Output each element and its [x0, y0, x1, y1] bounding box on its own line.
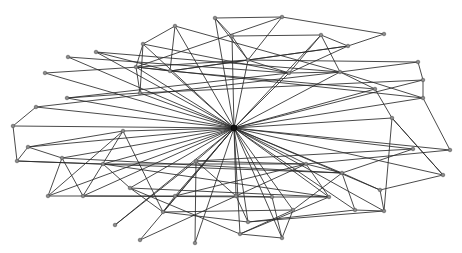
- graph-nodes: [11, 15, 452, 245]
- graph-edge: [348, 34, 384, 46]
- graph-edge: [234, 128, 443, 175]
- graph-node: [34, 105, 38, 109]
- graph-node: [11, 124, 15, 128]
- graph-node: [230, 34, 234, 38]
- graph-node: [60, 156, 64, 160]
- graph-node: [291, 208, 295, 212]
- graph-node: [382, 209, 386, 213]
- graph-node: [134, 65, 138, 69]
- network-graph: [0, 0, 462, 253]
- graph-node: [193, 241, 197, 245]
- graph-node: [121, 129, 125, 133]
- graph-edge: [342, 173, 380, 190]
- graph-edge: [36, 72, 340, 107]
- graph-edge: [45, 73, 234, 128]
- graph-node: [421, 78, 425, 82]
- graph-edge: [340, 62, 418, 72]
- graph-edge: [136, 17, 282, 67]
- hub-node: [231, 125, 237, 131]
- graph-edge: [13, 126, 17, 161]
- graph-edge: [13, 126, 234, 128]
- graph-edge: [28, 147, 62, 158]
- graph-node: [448, 148, 452, 152]
- graph-edge: [293, 173, 342, 210]
- graph-edge: [380, 175, 443, 190]
- graph-node: [161, 210, 165, 214]
- graph-node: [411, 147, 415, 151]
- graph-node: [46, 194, 50, 198]
- graph-node: [441, 173, 445, 177]
- graph-edge: [392, 118, 443, 175]
- graph-edge: [83, 128, 234, 196]
- graph-node: [319, 33, 323, 37]
- graph-edge: [423, 98, 450, 150]
- graph-edge: [143, 26, 175, 44]
- graph-node: [378, 188, 382, 192]
- graph-edge: [384, 118, 392, 211]
- graph-node: [346, 44, 350, 48]
- graph-edge: [232, 35, 321, 36]
- graph-edge: [143, 44, 289, 73]
- graph-node: [168, 69, 172, 73]
- graph-node: [66, 55, 70, 59]
- graph-edge: [234, 35, 321, 128]
- graph-node: [246, 58, 250, 62]
- graph-node: [238, 232, 242, 236]
- graph-node: [141, 42, 145, 46]
- graph-edge: [17, 147, 28, 161]
- graph-edge: [215, 17, 282, 18]
- graph-edge: [248, 60, 418, 62]
- graph-edge: [418, 62, 423, 80]
- graph-edge: [306, 150, 450, 164]
- graph-edge: [248, 17, 282, 60]
- graph-node: [194, 159, 198, 163]
- graph-edge: [13, 107, 36, 126]
- graph-edge: [140, 164, 306, 240]
- graph-edge: [103, 128, 234, 164]
- graph-edge: [240, 234, 282, 238]
- graph-node: [421, 96, 425, 100]
- graph-node: [340, 171, 344, 175]
- graph-node: [246, 220, 250, 224]
- graph-edge: [45, 60, 248, 73]
- graph-node: [416, 60, 420, 64]
- graph-node: [373, 87, 377, 91]
- graph-node: [213, 16, 217, 20]
- graph-edge: [136, 67, 140, 93]
- graph-edge: [196, 149, 413, 161]
- graph-node: [81, 194, 85, 198]
- graph-node: [43, 71, 47, 75]
- graph-node: [173, 194, 177, 198]
- graph-node: [94, 50, 98, 54]
- graph-edge: [340, 72, 423, 98]
- graph-edge: [232, 36, 234, 128]
- graph-node: [270, 195, 274, 199]
- graph-edge: [248, 210, 355, 222]
- graph-node: [15, 159, 19, 163]
- graph-node: [113, 223, 117, 227]
- graph-edge: [115, 161, 196, 225]
- graph-node: [327, 195, 331, 199]
- graph-node: [138, 91, 142, 95]
- graph-edge: [170, 71, 234, 128]
- graph-node: [101, 162, 105, 166]
- graph-node: [26, 145, 30, 149]
- graph-node: [65, 96, 69, 100]
- graph-node: [234, 194, 238, 198]
- graph-edge: [234, 118, 392, 128]
- graph-node: [353, 208, 357, 212]
- graph-edge: [282, 17, 384, 34]
- graph-edge: [232, 36, 248, 60]
- graph-node: [304, 162, 308, 166]
- graph-node: [128, 186, 132, 190]
- graph-node: [287, 71, 291, 75]
- graph-node: [390, 116, 394, 120]
- graph-edge: [248, 211, 384, 222]
- graph-edge: [355, 210, 384, 211]
- graph-edge: [380, 190, 384, 211]
- graph-node: [338, 70, 342, 74]
- graph-node: [138, 238, 142, 242]
- graph-node: [280, 236, 284, 240]
- graph-node: [280, 15, 284, 19]
- graph-node: [382, 32, 386, 36]
